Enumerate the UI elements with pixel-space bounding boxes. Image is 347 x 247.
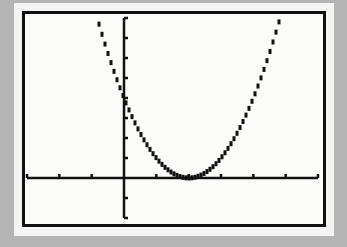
graph-plot xyxy=(0,0,347,247)
axes xyxy=(27,18,318,218)
